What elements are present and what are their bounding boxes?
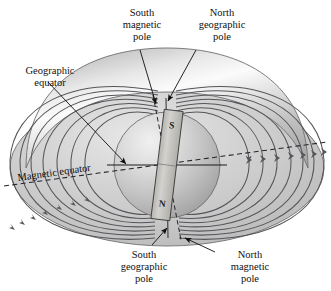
svg-text:equator: equator	[34, 77, 66, 88]
magnetic-field-diagram: S N South magnetic pole North geographic…	[0, 0, 331, 291]
svg-text:geographic: geographic	[199, 19, 246, 30]
svg-text:pole: pole	[133, 31, 151, 42]
label-north-magnetic-pole: North magnetic pole	[231, 249, 270, 284]
svg-text:magnetic: magnetic	[231, 261, 270, 272]
svg-text:South: South	[130, 7, 155, 18]
diagram-canvas: S N South magnetic pole North geographic…	[0, 0, 331, 291]
field-arrow	[9, 224, 15, 230]
svg-text:pole: pole	[213, 31, 231, 42]
field-arrow	[30, 214, 36, 220]
label-south-magnetic-pole: South magnetic pole	[123, 7, 162, 42]
svg-text:North: North	[210, 7, 235, 18]
label-north-geographic-pole: North geographic pole	[199, 7, 246, 42]
label-south-geographic-pole: South geographic pole	[121, 249, 168, 284]
svg-text:geographic: geographic	[121, 261, 168, 272]
svg-text:Geographic: Geographic	[26, 65, 75, 76]
svg-text:North: North	[238, 249, 263, 260]
svg-text:pole: pole	[241, 273, 259, 284]
svg-text:magnetic: magnetic	[123, 19, 162, 30]
svg-text:South: South	[132, 249, 157, 260]
field-arrow	[19, 219, 25, 225]
svg-text:pole: pole	[135, 273, 153, 284]
magnet-north-letter: N	[158, 198, 166, 209]
